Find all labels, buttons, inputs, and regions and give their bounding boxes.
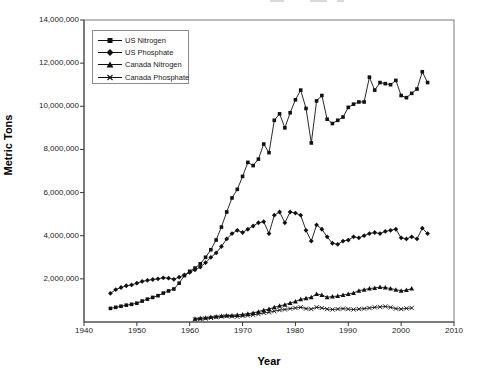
data-point-diamond <box>356 235 361 240</box>
legend-box: US Nitrogen US Phosphate Canada Nitrogen… <box>92 30 189 84</box>
legend-label: US Phosphate <box>125 48 173 57</box>
data-point-square <box>341 115 345 119</box>
data-point-square <box>161 291 165 295</box>
x-axis-tick-label: 1970 <box>228 326 258 336</box>
legend-item-canada-phosphate: Canada Phosphate <box>98 71 188 83</box>
data-point-square <box>172 287 176 291</box>
y-axis-tick-label: 4,000,000 <box>0 231 79 241</box>
data-point-triangle <box>409 286 414 291</box>
x-axis-tick-label: 1990 <box>333 326 363 336</box>
chart-canvas: 14,000,000 12,000,000 10,000,000 8,000,0… <box>0 0 478 376</box>
legend-label: US Nitrogen <box>125 36 166 45</box>
data-point-diamond <box>240 230 245 235</box>
diamond-marker-icon <box>98 48 122 57</box>
data-point-square <box>357 100 361 104</box>
data-point-square <box>320 94 324 98</box>
data-point-diamond <box>383 229 388 234</box>
square-marker-icon <box>98 36 122 45</box>
data-point-square <box>262 142 266 146</box>
data-point-diamond <box>393 227 398 232</box>
data-point-diamond <box>304 228 309 233</box>
data-point-square <box>389 83 393 87</box>
data-point-square <box>399 94 403 98</box>
data-point-diamond <box>150 277 155 282</box>
data-point-square <box>415 87 419 91</box>
data-point-square <box>426 81 430 85</box>
data-point-diamond <box>245 227 250 232</box>
series-line-us-nitrogen <box>110 72 427 309</box>
data-point-square <box>394 79 398 83</box>
data-point-square <box>309 141 313 145</box>
data-point-diamond <box>399 235 404 240</box>
data-point-square <box>246 161 250 165</box>
data-point-square <box>304 107 308 111</box>
data-point-square <box>124 303 128 307</box>
data-point-diamond <box>409 234 414 239</box>
data-point-diamond <box>140 279 145 284</box>
data-point-diamond <box>367 231 372 236</box>
data-point-diamond <box>161 275 166 280</box>
data-point-square <box>346 106 350 110</box>
data-point-diamond <box>341 239 346 244</box>
y-axis-tick-label: 12,000,000 <box>0 58 79 68</box>
data-point-square <box>251 164 255 168</box>
data-point-diamond <box>415 237 420 242</box>
data-point-triangle <box>309 295 314 300</box>
data-point-square <box>272 119 276 123</box>
data-point-square <box>283 126 287 130</box>
data-point-diamond <box>346 238 351 243</box>
x-axis-tick-label: 1980 <box>280 326 310 336</box>
data-point-square <box>373 88 377 92</box>
data-point-diamond <box>119 285 124 290</box>
data-point-square <box>299 88 303 92</box>
x-axis-tick-label: 2010 <box>439 326 469 336</box>
data-point-square <box>225 210 229 214</box>
data-point-square <box>241 175 245 179</box>
data-point-diamond <box>124 283 129 288</box>
data-point-square <box>209 248 213 252</box>
data-point-square <box>140 299 144 303</box>
data-point-diamond <box>388 228 393 233</box>
data-point-square <box>315 99 319 103</box>
data-point-diamond <box>362 233 367 238</box>
data-point-diamond <box>293 211 298 216</box>
data-point-diamond <box>129 282 134 287</box>
data-point-diamond <box>288 210 293 215</box>
data-point-square <box>214 238 218 242</box>
y-axis-tick-label: 14,000,000 <box>0 15 79 25</box>
data-point-square <box>405 96 409 100</box>
data-point-diamond <box>156 276 161 281</box>
y-axis-tick-label: 2,000,000 <box>0 274 79 284</box>
data-point-diamond <box>113 287 118 292</box>
series-line-canada-nitrogen <box>195 287 412 319</box>
data-point-diamond <box>177 275 182 280</box>
triangle-marker-icon <box>98 60 122 69</box>
data-point-diamond <box>171 277 176 282</box>
x-axis-tick-label: 1950 <box>122 326 152 336</box>
data-point-diamond <box>351 234 356 239</box>
legend-label: Canada Nitrogen <box>125 60 182 69</box>
data-point-square <box>352 102 356 106</box>
data-point-diamond <box>145 278 150 283</box>
y-axis-title: Metric Tons <box>2 95 16 195</box>
data-point-diamond <box>166 276 171 281</box>
data-point-square <box>278 112 282 116</box>
data-point-square <box>294 98 298 102</box>
data-point-diamond <box>309 239 314 244</box>
data-point-square <box>378 81 382 85</box>
x-axis-title: Year <box>219 355 319 367</box>
data-point-diamond <box>272 213 277 218</box>
data-point-square <box>325 117 329 121</box>
data-point-diamond <box>267 231 272 236</box>
x-marker-icon <box>98 73 122 82</box>
data-point-square <box>410 92 414 96</box>
data-point-diamond <box>372 230 377 235</box>
data-point-square <box>114 306 118 310</box>
data-point-triangle <box>314 291 319 296</box>
x-axis-tick-label: 2000 <box>386 326 416 336</box>
legend-item-canada-nitrogen: Canada Nitrogen <box>98 59 188 71</box>
data-point-square <box>177 281 181 285</box>
legend-label: Canada Phosphate <box>125 73 189 82</box>
data-point-square <box>267 151 271 155</box>
data-point-diamond <box>298 213 303 218</box>
